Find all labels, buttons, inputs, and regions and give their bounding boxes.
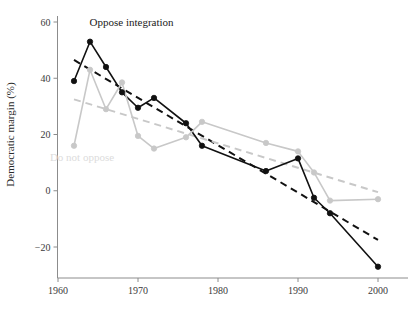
data-point-marker xyxy=(199,143,204,148)
data-point-marker xyxy=(295,156,300,161)
axis-title-layer: Democratic margin (%) xyxy=(4,82,17,187)
series-annotation: Oppose integration xyxy=(90,16,175,28)
axis-layer xyxy=(58,16,409,278)
y-tick-label: 60 xyxy=(41,17,51,28)
data-point-marker xyxy=(327,211,332,216)
chart-figure: 6040200−2019601970198019902000 Oppose in… xyxy=(0,0,416,315)
data-point-marker xyxy=(375,196,380,201)
series-annotation: Do not oppose xyxy=(50,151,114,163)
y-tick-label: 0 xyxy=(46,185,51,196)
data-point-marker xyxy=(103,64,108,69)
data-point-marker xyxy=(135,133,140,138)
line-chart: 6040200−2019601970198019902000 Oppose in… xyxy=(0,0,416,315)
x-tick-label: 1970 xyxy=(128,285,148,296)
data-point-marker xyxy=(311,195,316,200)
data-point-marker xyxy=(119,90,124,95)
y-axis-title: Democratic margin (%) xyxy=(4,82,17,187)
data-point-marker xyxy=(311,170,316,175)
data-point-marker xyxy=(183,121,188,126)
data-point-marker xyxy=(151,95,156,100)
data-point-marker xyxy=(103,106,108,111)
x-tick-label: 1990 xyxy=(288,285,308,296)
data-marker-layer xyxy=(71,39,380,269)
data-point-marker xyxy=(119,80,124,85)
x-tick-label: 1960 xyxy=(48,285,68,296)
data-point-marker xyxy=(199,119,204,124)
data-point-marker xyxy=(375,264,380,269)
data-point-marker xyxy=(151,146,156,151)
x-tick-label: 2000 xyxy=(368,285,388,296)
series-annotation-layer: Oppose integrationDo not oppose xyxy=(50,16,174,163)
x-tick-label: 1980 xyxy=(208,285,228,296)
trendline xyxy=(74,99,378,192)
data-point-marker xyxy=(87,39,92,44)
data-point-marker xyxy=(71,143,76,148)
data-point-marker xyxy=(135,105,140,110)
series-line xyxy=(74,42,378,267)
y-tick-label: 40 xyxy=(41,73,51,84)
data-point-marker xyxy=(263,168,268,173)
y-tick-label: 20 xyxy=(41,129,51,140)
data-point-marker xyxy=(295,149,300,154)
y-tick-label: −20 xyxy=(35,242,51,253)
data-point-marker xyxy=(263,140,268,145)
data-point-marker xyxy=(327,198,332,203)
data-series-layer xyxy=(74,42,378,267)
data-point-marker xyxy=(183,135,188,140)
data-point-marker xyxy=(87,67,92,72)
data-point-marker xyxy=(71,78,76,83)
